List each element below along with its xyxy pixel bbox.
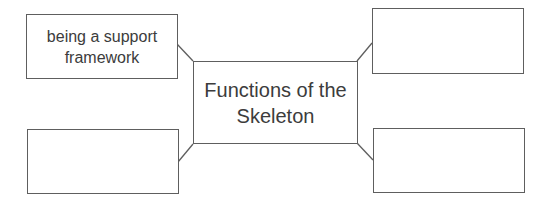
- center-label: Functions of the Skeleton: [201, 77, 351, 129]
- connector-top-right: [357, 43, 372, 61]
- branch-box-bottom-right[interactable]: [373, 128, 525, 193]
- connector-bottom-right: [357, 143, 373, 160]
- branch-label-top-left: being a support framework: [42, 26, 162, 68]
- connector-bottom-left: [178, 144, 193, 162]
- branch-box-top-left[interactable]: being a support framework: [26, 14, 178, 79]
- connector-top-left: [177, 44, 193, 61]
- branch-box-bottom-left[interactable]: [27, 129, 179, 194]
- center-box: Functions of the Skeleton: [193, 61, 358, 144]
- branch-box-top-right[interactable]: [372, 8, 524, 74]
